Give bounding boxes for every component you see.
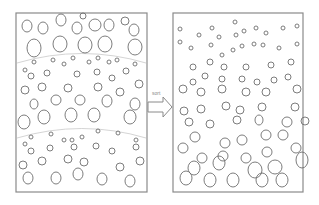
- particle-circle: [109, 75, 115, 81]
- particle-circle: [234, 33, 238, 37]
- particle-circle: [109, 148, 115, 154]
- particle-circle: [277, 46, 281, 50]
- particle-circle: [221, 64, 227, 70]
- particle-circle: [27, 39, 41, 57]
- particle-circle: [219, 76, 225, 82]
- particle-circle: [281, 26, 285, 30]
- particle-circle: [233, 20, 237, 24]
- particle-circle: [135, 80, 143, 88]
- particle-circle: [207, 59, 213, 65]
- particle-circle: [236, 106, 244, 114]
- particle-circle: [218, 85, 226, 93]
- sorting-diagram: sort: [0, 0, 319, 205]
- particle-circle: [62, 138, 66, 142]
- particle-circle: [28, 148, 34, 154]
- particle-circle: [133, 62, 137, 66]
- particle-circle: [189, 46, 193, 50]
- layer-boundary-arc: [17, 129, 146, 139]
- particle-circle: [28, 73, 34, 79]
- particle-circle: [282, 117, 292, 127]
- particle-circle: [134, 138, 138, 142]
- particle-circle: [180, 107, 188, 115]
- particle-circle: [261, 130, 271, 140]
- particle-circle: [38, 157, 46, 165]
- particle-circle: [121, 17, 129, 25]
- particle-circle: [231, 48, 235, 52]
- left-panel-unsorted: [16, 13, 147, 192]
- particle-circle: [190, 132, 200, 142]
- right-panel-frame: [173, 13, 303, 192]
- right-arrow-icon: [148, 97, 172, 117]
- particle-circle: [21, 86, 29, 94]
- particle-circle: [242, 88, 250, 96]
- particle-circle: [262, 88, 270, 96]
- particle-circle: [178, 143, 188, 153]
- particle-circle: [285, 74, 291, 80]
- particle-circle: [293, 85, 301, 93]
- particle-circle: [210, 26, 214, 30]
- particle-circle: [70, 138, 74, 142]
- sort-label: sort: [152, 90, 161, 96]
- particle-circle: [80, 13, 86, 19]
- particle-circle: [237, 135, 247, 145]
- particle-circle: [180, 171, 192, 185]
- particle-circle: [22, 20, 32, 32]
- right-panel-sorted: [173, 13, 309, 192]
- particle-circle: [197, 105, 205, 113]
- particle-circle: [213, 156, 225, 170]
- particle-circle: [98, 36, 112, 52]
- particle-circle: [96, 129, 100, 133]
- particle-circle: [255, 115, 263, 125]
- particle-circle: [243, 64, 249, 70]
- particle-circle: [94, 83, 102, 91]
- particle-circle: [129, 24, 139, 36]
- particle-circle: [53, 36, 67, 52]
- particle-circle: [18, 115, 30, 129]
- particle-circle: [38, 83, 46, 91]
- particle-circle: [44, 70, 50, 76]
- particle-circle: [239, 76, 245, 82]
- particle-circle: [264, 31, 268, 35]
- particle-circle: [38, 22, 48, 34]
- particle-circle: [197, 153, 207, 163]
- particle-circle: [262, 147, 272, 157]
- particle-circle: [64, 155, 72, 163]
- particle-circle: [56, 14, 66, 26]
- particle-circle: [30, 99, 38, 109]
- particle-circle: [254, 26, 258, 30]
- particle-circle: [32, 60, 36, 64]
- particles-sorted: [178, 20, 309, 187]
- particle-circle: [197, 33, 201, 37]
- particle-circle: [80, 158, 88, 166]
- particle-circle: [88, 108, 100, 122]
- particle-circle: [301, 117, 309, 125]
- particle-circle: [204, 173, 216, 187]
- particle-circle: [179, 85, 187, 93]
- particle-circle: [248, 162, 262, 178]
- particle-circle: [291, 143, 301, 153]
- particle-circle: [295, 42, 299, 46]
- particle-circle: [241, 153, 251, 163]
- particle-circle: [291, 103, 299, 111]
- particle-circle: [116, 163, 124, 171]
- particle-circle: [296, 152, 308, 168]
- particle-circle: [288, 59, 294, 65]
- particle-circle: [240, 44, 244, 48]
- particle-circle: [178, 40, 182, 44]
- particle-circle: [72, 22, 82, 34]
- particle-circle: [220, 53, 224, 57]
- particle-circle: [242, 29, 246, 33]
- particle-circle: [178, 27, 182, 31]
- particle-circle: [227, 173, 239, 187]
- particle-circle: [258, 103, 266, 111]
- particle-circle: [233, 116, 241, 124]
- particle-circle: [295, 24, 299, 28]
- particle-circle: [65, 108, 77, 122]
- particle-circle: [71, 144, 77, 150]
- particle-circle: [23, 142, 27, 146]
- particle-circle: [123, 68, 129, 74]
- particle-circle: [49, 132, 53, 136]
- particle-circle: [93, 143, 99, 149]
- particle-circle: [197, 88, 205, 96]
- particle-circle: [78, 37, 92, 53]
